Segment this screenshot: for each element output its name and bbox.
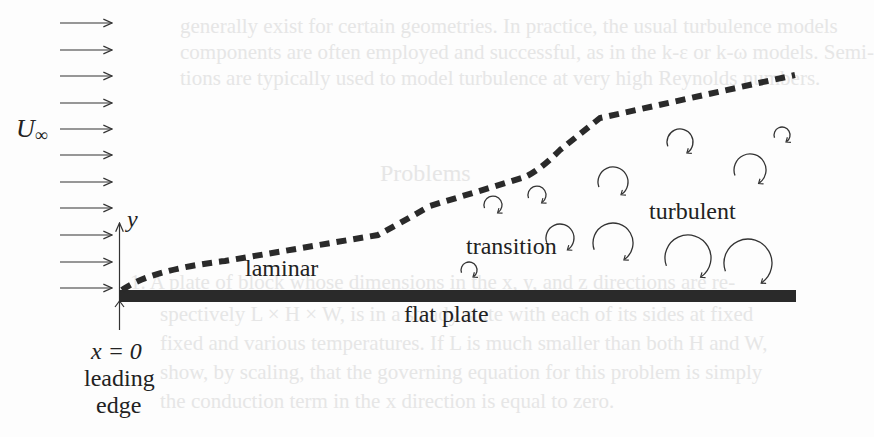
eddy-icon (528, 186, 546, 202)
freestream-arrows (60, 23, 112, 288)
leading-edge-label-line2: edge (96, 392, 141, 419)
eddy-icon (484, 196, 502, 212)
eddy-icon (593, 223, 633, 259)
turbulent-label: turbulent (649, 198, 736, 225)
boundary-layer-edge (122, 75, 795, 290)
eddy-icon (667, 129, 693, 153)
transition-label: transition (466, 233, 557, 260)
eddy-icon (774, 127, 790, 142)
leading-edge-label-line1: leading (84, 365, 155, 392)
eddy-icon (461, 262, 477, 277)
eddy-icon (665, 235, 711, 277)
infinity-subscript: ∞ (35, 125, 48, 145)
flat-plate-label: flat plate (404, 301, 489, 328)
origin-label: x = 0 (91, 338, 142, 365)
laminar-label: laminar (245, 255, 318, 282)
y-axis-label: y (127, 206, 138, 233)
freestream-velocity-label: U∞ (16, 114, 48, 146)
eddy-icon (734, 154, 766, 183)
eddy-icon (724, 239, 772, 283)
eddy-icon (598, 167, 628, 194)
